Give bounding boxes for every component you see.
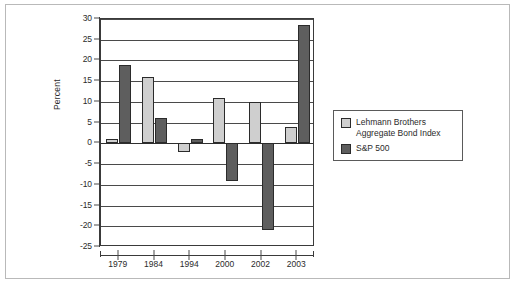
bar (226, 143, 238, 180)
legend-item: S&P 500 (341, 143, 455, 154)
chart-legend: Lehmann Brothers Aggregate Bond IndexS&P… (333, 110, 463, 161)
y-tick-label: 5 (87, 117, 92, 127)
x-tick-label-2002: 2002 (251, 259, 270, 269)
x-axis: 197919841994200020022003 (100, 246, 314, 272)
y-tick-label: 0 (87, 137, 92, 147)
y-tick-label: 15 (83, 75, 92, 85)
bar (213, 98, 225, 144)
bar (106, 139, 118, 143)
y-tick-label: 10 (83, 96, 92, 106)
bar (155, 118, 167, 143)
bar (178, 143, 190, 151)
legend-label: Lehmann Brothers Aggregate Bond Index (356, 117, 441, 138)
bar (249, 102, 261, 143)
y-tick-label: -10 (80, 179, 92, 189)
y-tick-label: -15 (80, 200, 92, 210)
y-tick-label: 30 (83, 13, 92, 23)
y-tick-label: 20 (83, 54, 92, 64)
legend-swatch-icon (341, 144, 351, 154)
y-tick-label: -20 (80, 220, 92, 230)
legend-label: S&P 500 (356, 143, 389, 154)
y-tick-label: -5 (85, 158, 92, 168)
bar (298, 25, 310, 143)
y-axis-title: Percent (52, 79, 62, 110)
x-tick-label-2000: 2000 (215, 259, 234, 269)
bar-series-group (101, 19, 313, 245)
x-tick-label-1979: 1979 (108, 259, 127, 269)
bar (119, 65, 131, 144)
bar (191, 139, 203, 143)
x-tick-label-2003: 2003 (287, 259, 306, 269)
x-tick-label-1994: 1994 (180, 259, 199, 269)
bar (142, 77, 154, 143)
x-axis-line (100, 255, 314, 256)
legend-item: Lehmann Brothers Aggregate Bond Index (341, 117, 455, 138)
plot-area (100, 18, 314, 246)
y-tick-label: -25 (80, 241, 92, 251)
bar (285, 127, 297, 144)
legend-swatch-icon (341, 118, 351, 128)
bar (262, 143, 274, 230)
x-tick-label-1984: 1984 (144, 259, 163, 269)
plot-wrap (100, 18, 314, 246)
y-axis: 302520151050-5-10-15-20-25 (62, 18, 100, 246)
y-tick-label: 25 (83, 34, 92, 44)
chart-figure: Percent 302520151050-5-10-15-20-25 19791… (0, 0, 515, 285)
